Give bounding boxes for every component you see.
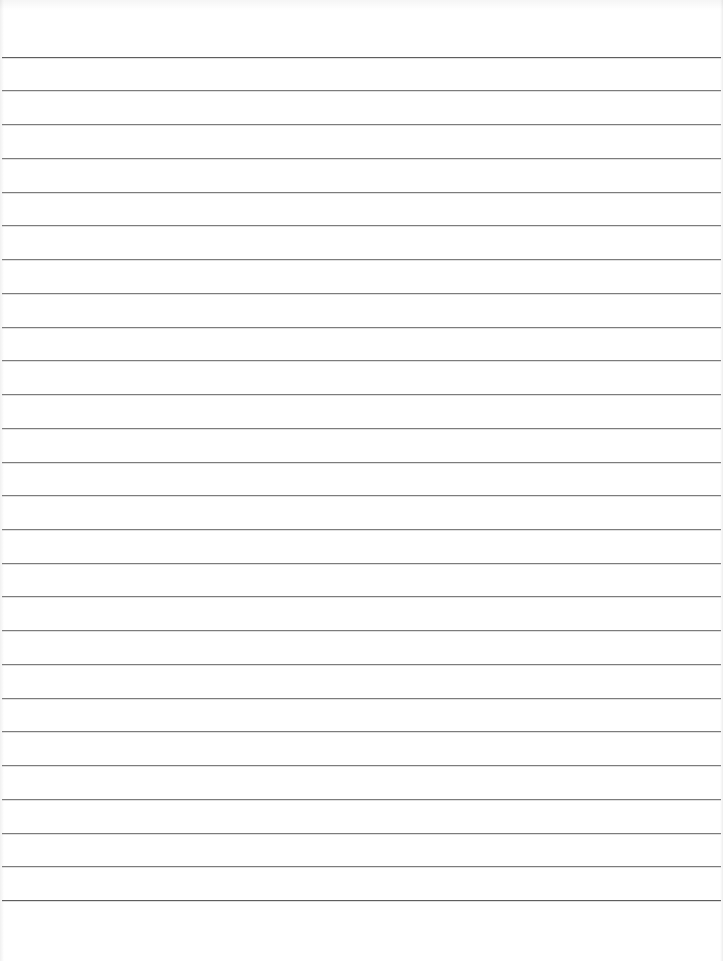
ruled-line xyxy=(2,765,721,766)
ruled-line xyxy=(2,596,721,597)
ruled-line xyxy=(2,630,721,631)
ruled-line xyxy=(2,428,721,429)
ruled-line xyxy=(2,225,721,226)
ruled-line xyxy=(2,90,721,91)
ruled-line xyxy=(2,158,721,159)
ruled-line xyxy=(2,866,721,867)
ruled-line xyxy=(2,529,721,530)
ruled-line xyxy=(2,293,721,294)
ruled-line xyxy=(2,731,721,732)
ruled-line xyxy=(2,360,721,361)
ruled-line xyxy=(2,462,721,463)
ruled-line xyxy=(2,327,721,328)
ruled-lines xyxy=(0,0,723,961)
lined-paper-page xyxy=(0,0,723,961)
ruled-line xyxy=(2,698,721,699)
ruled-line xyxy=(2,900,721,901)
ruled-line xyxy=(2,394,721,395)
ruled-line xyxy=(2,495,721,496)
ruled-line xyxy=(2,192,721,193)
ruled-line xyxy=(2,833,721,834)
ruled-line xyxy=(2,664,721,665)
ruled-line xyxy=(2,57,721,58)
ruled-line xyxy=(2,124,721,125)
ruled-line xyxy=(2,799,721,800)
ruled-line xyxy=(2,563,721,564)
ruled-line xyxy=(2,259,721,260)
